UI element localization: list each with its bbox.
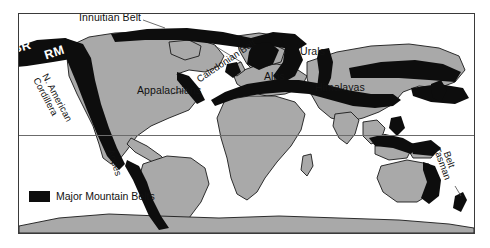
land-madagascar [301, 154, 313, 176]
label-br: BR [18, 39, 33, 57]
land-central-america [127, 138, 169, 168]
land-africa [217, 96, 305, 200]
map-frame: Innuitian Belt BR RM N. American Cordill… [18, 13, 475, 234]
graticule-equator [19, 135, 474, 136]
land-indonesia [375, 144, 411, 160]
legend-label-mountain-belts: Major Mountain Belts [56, 190, 155, 202]
leader-innuitian [143, 20, 165, 28]
land-southeast-asia [363, 120, 385, 144]
leader-tasman [455, 186, 461, 196]
label-innuitian-belt: Innuitian Belt [79, 13, 141, 23]
label-himalayas: Himalayas [315, 82, 365, 93]
label-appalachians: Appalachians [137, 85, 201, 96]
land-north-america [67, 32, 224, 164]
land-british-isles [229, 62, 245, 76]
belt-japan-arc [431, 80, 447, 102]
belt-philippine-arc [389, 116, 405, 136]
map-legend: Major Mountain Belts [29, 190, 155, 202]
belt-indonesian-arc [369, 134, 417, 154]
land-japan [433, 82, 445, 98]
land-australia [377, 160, 437, 202]
label-rm: RM [43, 44, 66, 63]
belt-new-zealand [453, 192, 467, 212]
label-andes: Andes [106, 148, 124, 177]
land-antarctica [19, 214, 474, 233]
label-alps: Alps [264, 71, 285, 82]
belt-central-asia [349, 60, 461, 82]
land-scandinavia [257, 44, 285, 66]
world-map-figure: Innuitian Belt BR RM N. American Cordill… [0, 0, 490, 248]
land-india [333, 112, 359, 144]
belt-alpine-himalayan [211, 80, 401, 108]
land-baffin-island [169, 40, 201, 60]
belt-innuitian [111, 28, 307, 50]
legend-swatch-mountain-belts [29, 191, 50, 202]
label-urals: Urals [300, 46, 325, 57]
belt-east-asia [411, 84, 469, 104]
label-caledonian-belt: Caledonian Belt [195, 38, 257, 85]
